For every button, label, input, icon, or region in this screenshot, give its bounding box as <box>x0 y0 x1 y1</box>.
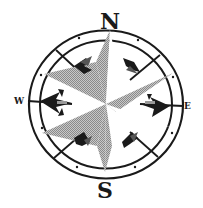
west-arrow <box>28 89 72 116</box>
compass-rose: N S W E <box>0 0 203 208</box>
east-arrow <box>140 94 183 117</box>
label-north: N <box>100 8 120 34</box>
star-south <box>105 104 112 172</box>
label-west: W <box>13 96 25 106</box>
label-south: S <box>97 177 113 203</box>
label-east: E <box>184 101 191 111</box>
